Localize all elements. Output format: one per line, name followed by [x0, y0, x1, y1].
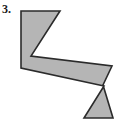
zigzag-polygon-figure	[0, 0, 134, 127]
figure-canvas: 3.	[0, 0, 134, 127]
zigzag-polygon-shape	[21, 11, 113, 118]
